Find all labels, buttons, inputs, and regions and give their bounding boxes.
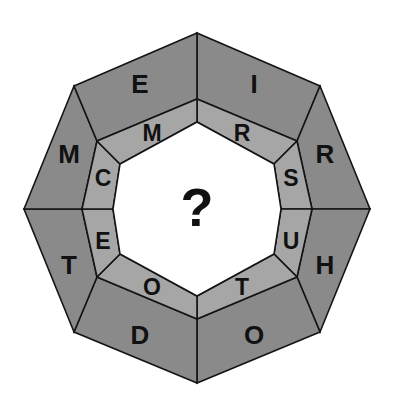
ring-letter-inner-3: T: [235, 274, 249, 300]
ring-letter-outer-3: O: [244, 320, 264, 350]
ring-letter-inner-4: O: [143, 274, 161, 300]
ring-letter-outer-4: D: [131, 320, 150, 350]
ring-letter-outer-7: E: [131, 69, 148, 99]
ring-letter-outer-2: H: [316, 250, 335, 280]
ring-letter-inner-2: U: [283, 228, 300, 254]
ring-letter-outer-5: T: [61, 250, 77, 280]
ring-letter-inner-1: S: [283, 165, 298, 191]
puzzle-figure: I R H O D T M: [0, 0, 393, 415]
ring-letter-inner-6: C: [95, 165, 112, 191]
ring-letter-inner-5: E: [95, 228, 110, 254]
center-question-mark: ?: [181, 177, 214, 237]
ring-letter-inner-0: R: [234, 120, 251, 146]
ring-letter-outer-6: M: [58, 139, 80, 169]
octagon-ring-diagram: I R H O D T M: [0, 0, 393, 415]
ring-letter-outer-1: R: [316, 139, 335, 169]
ring-letter-outer-0: I: [250, 69, 257, 99]
